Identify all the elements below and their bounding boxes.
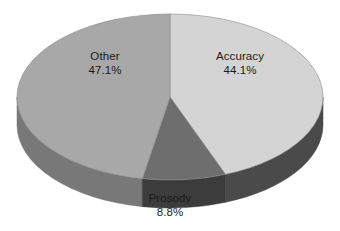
pie-top-faces (17, 14, 323, 180)
pie-chart-figure: Other 47.1% Accuracy 44.1% Prosody 8.8% (0, 0, 340, 231)
pie-chart-graphic (0, 0, 340, 231)
